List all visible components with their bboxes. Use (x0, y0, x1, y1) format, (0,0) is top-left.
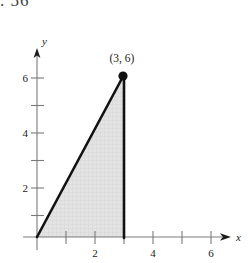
y-tick-label-4: 4 (23, 127, 29, 139)
point-label-3-6: (3, 6) (110, 52, 135, 65)
point-marker-3-6 (118, 71, 127, 80)
figure-page: . 56 (0, 0, 248, 263)
x-tick-label-4: 4 (150, 247, 156, 259)
y-tick-label-2: 2 (23, 182, 29, 194)
coordinate-plane-figure: 6 4 2 2 4 6 y x (3, 6) (0, 0, 248, 263)
x-tick-label-6: 6 (208, 247, 214, 259)
y-axis-label: y (41, 35, 47, 47)
y-axis (31, 48, 44, 250)
x-tick-label-2: 2 (92, 247, 98, 259)
x-axis-label: x (235, 231, 241, 243)
y-tick-label-6: 6 (23, 72, 29, 84)
